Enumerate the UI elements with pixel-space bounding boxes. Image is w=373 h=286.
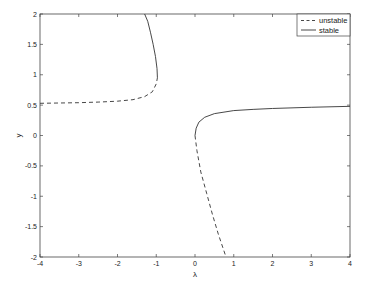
x-tick-label: 1 xyxy=(232,260,236,267)
x-tick-label: -1 xyxy=(153,260,159,267)
y-tick-label: 0.5 xyxy=(27,102,37,109)
x-tick-label: -4 xyxy=(37,260,43,267)
y-tick-label: 1.5 xyxy=(27,41,37,48)
y-tick-label: 1 xyxy=(33,71,37,78)
y-tick-label: -1 xyxy=(31,193,37,200)
y-tick-label: -2 xyxy=(31,254,37,261)
y-tick-label: 2 xyxy=(33,11,37,18)
x-tick-label: -2 xyxy=(114,260,120,267)
legend-stable-label: stable xyxy=(319,26,339,35)
x-tick-label: -3 xyxy=(76,260,82,267)
y-tick-label: -0.5 xyxy=(25,162,37,169)
chart: -4-3-2-101234 -2-1.5-1-0.500.511.52 λ y … xyxy=(0,0,373,286)
y-axis-label: y xyxy=(14,134,23,138)
x-tick-label: 4 xyxy=(348,260,352,267)
x-axis-label: λ xyxy=(193,270,197,279)
x-tick-label: 0 xyxy=(193,260,197,267)
y-tick-label: 0 xyxy=(33,132,37,139)
legend-unstable-label: unstable xyxy=(319,16,347,25)
x-tick-label: 2 xyxy=(271,260,275,267)
x-tick-label: 3 xyxy=(309,260,313,267)
y-tick-label: -1.5 xyxy=(25,223,37,230)
legend: unstable stable xyxy=(297,14,350,36)
